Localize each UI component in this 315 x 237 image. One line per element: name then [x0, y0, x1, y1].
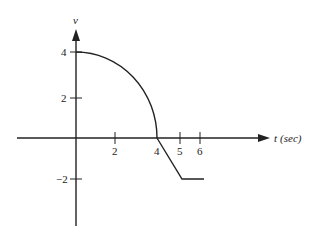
x-tick-label-4: 4 — [154, 145, 160, 157]
y-axis-arrow-icon — [72, 29, 80, 41]
y-tick-label-4: 4 — [61, 46, 67, 58]
y-axis-label: v — [73, 14, 78, 26]
x-tick-label-5: 5 — [177, 145, 183, 157]
x-tick-label-2: 2 — [112, 145, 118, 157]
curve-segment — [76, 52, 157, 138]
velocity-chart: v t(sec) 4 2 −2 2 4 5 6 — [0, 0, 315, 237]
y-tick-label-neg2: −2 — [56, 173, 68, 185]
x-axis-arrow-icon — [258, 134, 270, 142]
x-axis-label: t(sec) — [274, 132, 302, 145]
y-tick-label-2: 2 — [61, 92, 67, 104]
x-tick-label-6: 6 — [197, 145, 203, 157]
